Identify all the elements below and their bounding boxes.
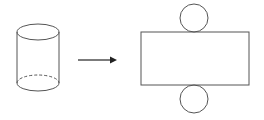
cylinder-bottom-back-arc-dashed — [17, 75, 59, 83]
cylinder-net-diagram — [0, 0, 264, 120]
cylinder — [17, 24, 59, 91]
net-top-circle — [180, 4, 208, 32]
net-bottom-circle — [180, 85, 208, 113]
cylinder-top-ellipse — [17, 24, 59, 40]
cylinder-bottom-front-arc — [17, 83, 59, 91]
net-lateral-rectangle — [141, 32, 249, 85]
cylinder-net — [141, 4, 249, 113]
arrow-icon — [78, 57, 117, 64]
